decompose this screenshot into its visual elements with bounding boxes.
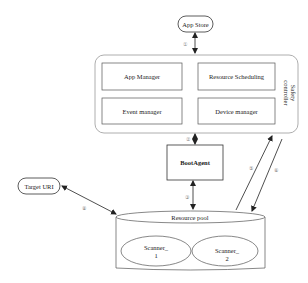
target-uri-node: Target URI — [18, 178, 60, 194]
svg-text:1: 1 — [154, 252, 157, 259]
boot-agent-label: BootAgent — [180, 159, 210, 166]
step-3-label: ③ — [185, 194, 190, 200]
svg-text:Scanner_: Scanner_ — [215, 247, 240, 254]
app-store-node: App Store — [178, 16, 213, 32]
step-8-label: ⑧ — [82, 205, 87, 211]
svg-text:Scanner_: Scanner_ — [144, 244, 169, 251]
svg-text:controller: controller — [283, 80, 290, 106]
step-2-label: ② — [186, 136, 191, 142]
step-1-label: ① — [183, 41, 188, 47]
svg-text:Safety: Safety — [290, 85, 297, 102]
app-store-label: App Store — [182, 21, 209, 28]
module-resource-scheduling: Resource Scheduling — [198, 63, 275, 90]
module-device-manager: Device manager — [198, 98, 275, 124]
arrow-controller-to-pool — [252, 139, 282, 211]
arrow-target-pool — [62, 186, 116, 214]
svg-text:2: 2 — [225, 255, 228, 262]
module-app-manager: App Manager — [102, 63, 182, 90]
boot-agent-node: BootAgent — [167, 145, 223, 180]
step-6-label: ⑥ — [274, 167, 279, 173]
event-manager-label: Event manager — [122, 108, 162, 115]
module-event-manager: Event manager — [102, 98, 182, 124]
resource-pool: Resource pool Scanner_ 1 Scanner_ 2 — [116, 211, 265, 270]
arrow-pool-to-controller — [236, 136, 272, 210]
device-manager-label: Device manager — [215, 108, 258, 115]
safety-controller: App Manager Resource Scheduling Event ma… — [95, 55, 298, 133]
scanner-2: Scanner_ 2 — [192, 236, 258, 266]
scanner-1: Scanner_ 1 — [121, 236, 191, 266]
resource-scheduling-label: Resource Scheduling — [209, 73, 265, 80]
resource-pool-label: Resource pool — [171, 214, 209, 221]
architecture-diagram: App Store ① App Manager Resource Schedul… — [0, 0, 308, 283]
app-manager-label: App Manager — [124, 73, 161, 80]
step-5-label: ⑤ — [249, 165, 254, 171]
target-uri-label: Target URI — [24, 183, 53, 190]
